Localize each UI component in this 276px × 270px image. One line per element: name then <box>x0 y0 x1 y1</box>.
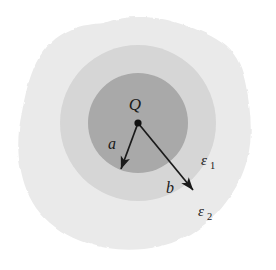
radius-a-label: a <box>108 135 116 152</box>
point-charge-dot <box>134 119 141 126</box>
dielectric-sphere-diagram: Q a b ε 1 ε 2 <box>0 0 276 270</box>
permittivity-2-subscript: 2 <box>207 211 212 222</box>
permittivity-2-symbol: ε <box>198 203 204 219</box>
permittivity-1-subscript: 1 <box>210 160 215 171</box>
permittivity-1-symbol: ε <box>201 152 207 168</box>
charge-label: Q <box>129 95 141 114</box>
radius-b-label: b <box>166 179 174 196</box>
figure-canvas: Q a b ε 1 ε 2 <box>0 0 276 270</box>
